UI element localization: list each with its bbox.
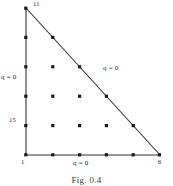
node-row0-2: [78, 153, 81, 156]
node-row2-3: [105, 95, 108, 98]
node-row1-2: [78, 124, 81, 127]
node-row3-0: [24, 65, 27, 68]
node-row0-3: [105, 153, 108, 156]
node-row0-1: [51, 153, 54, 156]
figure-container: 11 1 6 15 q = 0 q = 0 q = 0 Fig. 0.4: [0, 0, 173, 186]
node-row1-3: [105, 124, 108, 127]
node-row0-4: [132, 153, 135, 156]
node-row1-4: [132, 124, 135, 127]
node-row0-5: [158, 153, 161, 156]
figure-caption: Fig. 0.4: [0, 175, 173, 186]
node-row1-0: [24, 124, 27, 127]
node-row4-1: [51, 36, 54, 39]
node-row0-0: [24, 153, 27, 156]
boundary-condition-label-left: q = 0: [1, 74, 16, 81]
boundary-condition-label-hypotenuse: q = 0: [103, 65, 118, 72]
vertex-label-top: 11: [33, 1, 40, 8]
node-row4-0: [24, 36, 27, 39]
node-row3-2: [78, 65, 81, 68]
node-row2-0: [24, 95, 27, 98]
hypotenuse-edge: [26, 8, 160, 155]
node-row3-1: [51, 65, 54, 68]
vertex-label-bottom-left: 1: [21, 159, 24, 166]
triangle-edges: [26, 8, 160, 155]
vertex-label-bottom-right: 6: [158, 159, 161, 166]
node-row2-1: [51, 95, 54, 98]
node-label-left-edge: 15: [9, 117, 16, 124]
node-row1-1: [51, 124, 54, 127]
boundary-condition-label-bottom: q = 0: [73, 160, 88, 167]
node-row5-0: [24, 7, 27, 10]
node-row2-2: [78, 95, 81, 98]
